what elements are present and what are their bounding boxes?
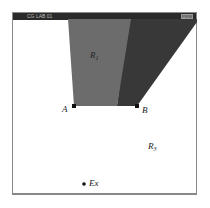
region-r2 bbox=[117, 19, 197, 106]
label-ex: Ex bbox=[89, 178, 99, 188]
point-a-marker bbox=[72, 104, 76, 108]
label-r1: R1 bbox=[90, 50, 99, 61]
label-b: B bbox=[142, 105, 148, 115]
label-a: A bbox=[62, 104, 68, 114]
point-b-marker bbox=[135, 104, 139, 108]
label-r3-sub: 3 bbox=[154, 146, 157, 152]
label-r1-sub: 1 bbox=[96, 55, 99, 61]
label-r3: R3 bbox=[148, 141, 157, 152]
diagram-canvas bbox=[0, 0, 210, 208]
point-ex-marker bbox=[82, 182, 86, 186]
